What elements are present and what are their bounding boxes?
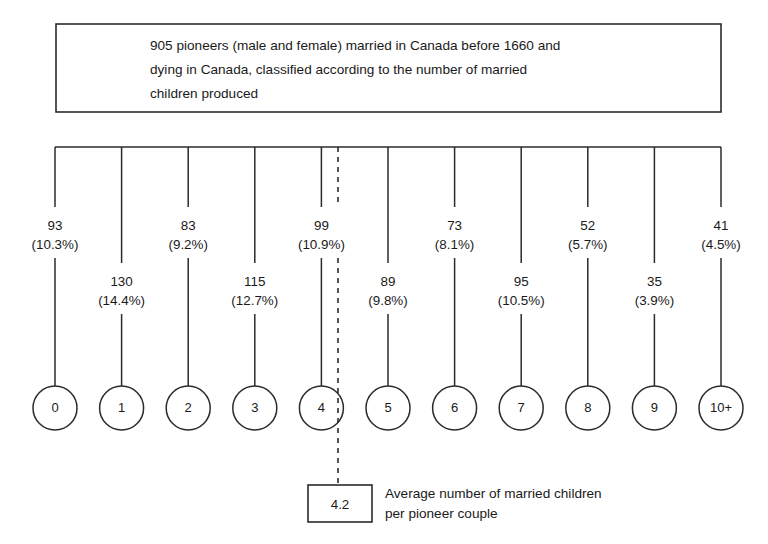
category-columns: 93(10.3%)0130(14.4%)183(9.2%)2115(12.7%)… xyxy=(32,147,743,430)
diagram-canvas: 905 pioneers (male and female) married i… xyxy=(0,0,768,544)
count-value-2: 83 xyxy=(181,218,196,233)
average-caption-line-2: per pioneer couple xyxy=(385,506,498,521)
count-value-10+: 41 xyxy=(714,218,729,233)
percent-value-5: (9.8%) xyxy=(368,293,407,308)
category-label-7: 7 xyxy=(518,400,525,415)
category-label-1: 1 xyxy=(118,400,125,415)
title-line-3: children produced xyxy=(150,86,258,101)
percent-value-4: (10.9%) xyxy=(298,237,345,252)
pioneer-children-diagram: 905 pioneers (male and female) married i… xyxy=(0,0,768,544)
average-value: 4.2 xyxy=(331,497,350,512)
count-value-5: 89 xyxy=(381,274,396,289)
count-value-1: 130 xyxy=(110,274,132,289)
category-label-9: 9 xyxy=(651,400,658,415)
category-label-0: 0 xyxy=(51,400,58,415)
category-label-8: 8 xyxy=(584,400,591,415)
category-label-4: 4 xyxy=(318,400,325,415)
count-value-0: 93 xyxy=(48,218,63,233)
category-label-2: 2 xyxy=(185,400,192,415)
category-label-10+: 10+ xyxy=(710,400,732,415)
count-value-6: 73 xyxy=(447,218,462,233)
category-label-6: 6 xyxy=(451,400,458,415)
percent-value-8: (5.7%) xyxy=(568,237,607,252)
percent-value-3: (12.7%) xyxy=(231,293,278,308)
percent-value-10+: (4.5%) xyxy=(701,237,740,252)
count-value-4: 99 xyxy=(314,218,329,233)
percent-value-7: (10.5%) xyxy=(498,293,545,308)
category-label-5: 5 xyxy=(384,400,391,415)
title-line-1: 905 pioneers (male and female) married i… xyxy=(150,38,560,53)
count-value-3: 115 xyxy=(244,274,265,289)
title-line-2: dying in Canada, classified according to… xyxy=(150,62,527,77)
percent-value-6: (8.1%) xyxy=(435,237,474,252)
percent-value-2: (9.2%) xyxy=(168,237,207,252)
percent-value-1: (14.4%) xyxy=(98,293,145,308)
percent-value-0: (10.3%) xyxy=(32,237,79,252)
count-value-9: 35 xyxy=(647,274,662,289)
average-caption-line-1: Average number of married children xyxy=(385,486,602,501)
count-value-8: 52 xyxy=(580,218,595,233)
category-label-3: 3 xyxy=(251,400,258,415)
count-value-7: 95 xyxy=(514,274,529,289)
percent-value-9: (3.9%) xyxy=(635,293,674,308)
